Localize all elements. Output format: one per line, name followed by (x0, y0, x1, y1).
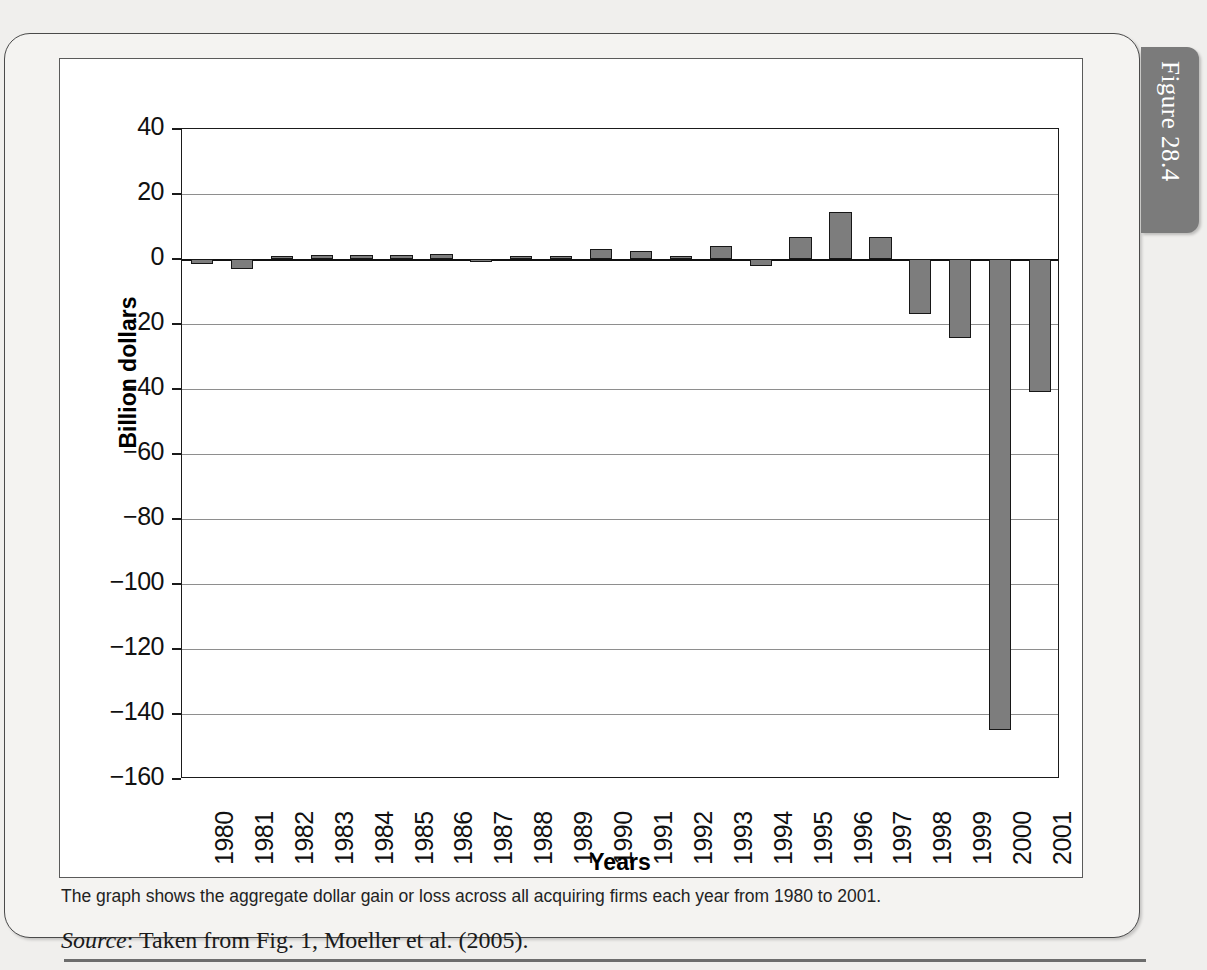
bar-1987 (470, 259, 492, 262)
y-tick-mark (172, 713, 181, 715)
source-label: Source (61, 927, 127, 953)
page-divider (64, 959, 1146, 962)
y-tick-mark (172, 193, 181, 195)
y-tick-mark (172, 648, 181, 650)
plot-area (181, 128, 1059, 778)
y-tick-label: −120 (64, 632, 164, 661)
y-tick-mark (172, 258, 181, 260)
y-tick-label: −100 (64, 567, 164, 596)
chart-container: 40200−20−40−60−80−100−120−140−160 Billio… (59, 58, 1083, 878)
figure-source: Source: Taken from Fig. 1, Moeller et al… (61, 927, 1091, 954)
bar-2001 (1029, 259, 1051, 392)
bar-1981 (231, 259, 253, 269)
x-axis-title: Years (181, 849, 1059, 876)
bar-1988 (510, 256, 532, 259)
y-tick-label: −80 (64, 502, 164, 531)
y-tick-mark (172, 453, 181, 455)
bar-1983 (311, 255, 333, 259)
y-tick-mark (172, 583, 181, 585)
bar-1995 (789, 237, 811, 259)
bar-1980 (191, 259, 213, 264)
bar-1993 (710, 246, 732, 259)
y-tick-label: 40 (64, 112, 164, 141)
bar-1985 (390, 255, 412, 259)
bar-1990 (590, 249, 612, 259)
bar-1997 (869, 237, 891, 259)
figure-number-label: Figure 28.4 (1156, 61, 1184, 182)
bar-1982 (271, 256, 293, 259)
y-tick-label: −160 (64, 762, 164, 791)
y-tick-label: −140 (64, 697, 164, 726)
bar-1989 (550, 256, 572, 259)
y-axis-title: Billion dollars (115, 296, 142, 448)
y-tick-mark (172, 323, 181, 325)
y-tick-mark (172, 388, 181, 390)
figure-note: The graph shows the aggregate dollar gai… (61, 886, 1091, 907)
bar-1992 (670, 256, 692, 259)
y-tick-label: 0 (64, 242, 164, 271)
bar-1994 (750, 259, 772, 266)
bar-1998 (909, 259, 931, 314)
bar-1991 (630, 251, 652, 259)
bar-1986 (430, 254, 452, 259)
bar-1999 (949, 259, 971, 338)
bar-series (182, 129, 1058, 777)
source-text: : Taken from Fig. 1, Moeller et al. (200… (127, 927, 529, 953)
y-tick-label: 20 (64, 177, 164, 206)
figure-panel: 40200−20−40−60−80−100−120−140−160 Billio… (4, 33, 1140, 938)
y-axis-labels: 40200−20−40−60−80−100−120−140−160 (60, 59, 164, 877)
figure-number-tab: Figure 28.4 (1141, 47, 1199, 233)
bar-1996 (829, 212, 851, 259)
y-tick-mark (172, 128, 181, 130)
y-tick-mark (172, 518, 181, 520)
bar-2000 (989, 259, 1011, 730)
y-tick-mark (172, 778, 181, 780)
bar-1984 (350, 255, 372, 259)
